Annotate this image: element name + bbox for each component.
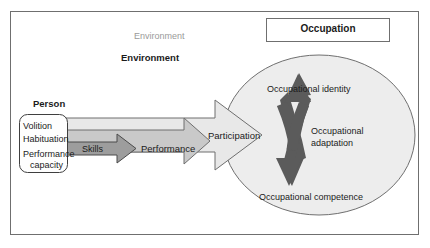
occupational-adaptation-label-line1: Occupational [311,126,364,136]
performance-arrow-label: Performance [141,144,195,155]
diagram-canvas: Environment Environment Occupation Perso… [0,0,430,248]
skills-arrow-label: Skills [82,144,103,154]
diagram-graphics [0,0,430,248]
person-item-habituation: Habituation [23,134,69,144]
person-item-performance: Performance [23,149,75,159]
occupational-competence-label: Occupational competence [259,192,363,202]
person-item-capacity: capacity [30,160,63,170]
environment-label-faint: Environment [134,31,185,41]
occupational-adaptation-label-line2: adaptation [311,138,353,148]
occupational-identity-label: Occupational identity [267,84,351,94]
participation-arrow-label: Participation [208,131,260,142]
occupation-title-label: Occupation [266,23,390,34]
person-box-heading: Person [33,99,65,110]
person-item-volition: Volition [23,121,52,131]
environment-label-bold: Environment [121,53,179,64]
